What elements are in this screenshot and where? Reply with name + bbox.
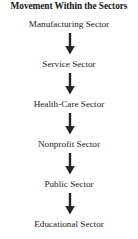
- page-title: Movement Within the Sectors: [0, 1, 138, 12]
- down-arrow-icon-4: [61, 150, 79, 178]
- flow-sequence: Manufacturing Sector Service Sector Heal…: [0, 18, 138, 230]
- flow-node-service-sector: Service Sector: [0, 58, 138, 70]
- flow-node-manufacturing-sector: Manufacturing Sector: [0, 18, 138, 30]
- down-arrow-icon-2: [61, 70, 79, 98]
- down-arrow-icon-1: [61, 30, 79, 58]
- flow-node-health-care-sector: Health-Care Sector: [0, 98, 138, 110]
- movement-within-sectors-diagram: Movement Within the Sectors Manufacturin…: [0, 0, 138, 239]
- down-arrow-icon-3: [61, 110, 79, 138]
- down-arrow-icon-5: [61, 190, 79, 218]
- flow-node-public-sector: Public Sector: [0, 178, 138, 190]
- flow-node-nonprofit-sector: Nonprofit Sector: [0, 138, 138, 150]
- flow-node-educational-sector: Educational Sector: [0, 218, 138, 230]
